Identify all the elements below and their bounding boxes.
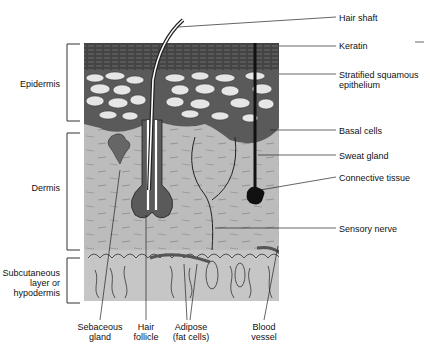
label-hair-shaft: Hair shaft [339, 13, 378, 23]
label-blood-vessel: Blood vessel [244, 322, 284, 342]
label-connective-tissue: Connective tissue [339, 173, 410, 183]
label-hair-follicle: Hair follicle [126, 322, 166, 342]
layer-brackets [67, 44, 80, 303]
label-sweat-gland: Sweat gland [339, 151, 389, 161]
label-adipose: Adipose (fat cells) [166, 322, 216, 342]
label-keratin: Keratin [339, 41, 368, 51]
label-stratified-epithelium: Stratified squamous epithelium [339, 70, 419, 90]
label-basal-cells: Basal cells [339, 126, 382, 136]
label-dermis: Dermis [14, 183, 60, 193]
label-hypodermis: Subcutaneous layer or hypodermis [2, 268, 60, 298]
label-sensory-nerve: Sensory nerve [339, 224, 397, 234]
label-epidermis: Epidermis [14, 79, 60, 89]
label-sebaceous-gland: Sebaceous gland [72, 322, 128, 342]
keratin-layer [84, 43, 279, 70]
